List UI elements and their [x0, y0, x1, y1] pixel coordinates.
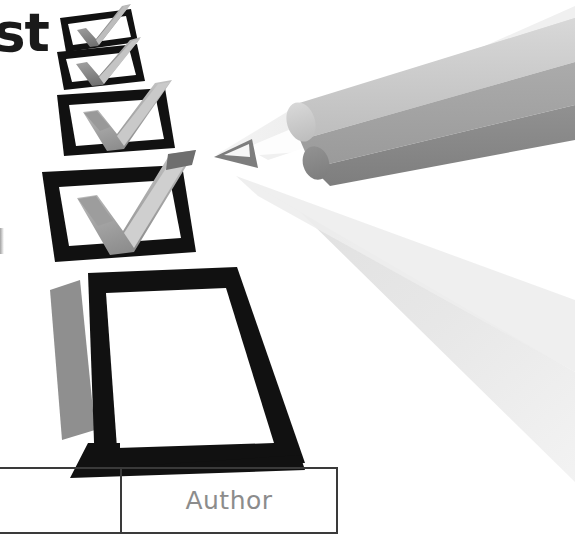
checkbox-5	[50, 267, 305, 470]
scan-edge-artifact	[0, 228, 4, 254]
page-canvas: st Author	[0, 0, 575, 544]
checkbox-4	[42, 150, 196, 262]
page-title-fragment: st	[0, 6, 49, 59]
table-border-right	[336, 467, 338, 534]
checklist-illustration	[0, 0, 575, 544]
table-cell-author: Author	[122, 469, 336, 532]
checkbox-3	[57, 80, 175, 156]
table-cell-blank	[0, 469, 120, 532]
table-border-bottom	[0, 532, 338, 534]
author-table: Author	[0, 467, 338, 534]
